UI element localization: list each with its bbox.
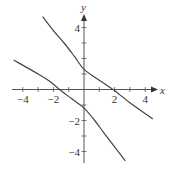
graph-plot: −4−2244−2−4 x y	[0, 0, 174, 172]
x-axis-label: x	[159, 84, 165, 96]
y-axis-arrow-icon	[81, 14, 87, 21]
x-tick-label: −4	[17, 93, 29, 105]
curves	[14, 17, 153, 161]
x-tick-label: 4	[142, 93, 148, 105]
axes	[12, 14, 158, 163]
x-axis-arrow-icon	[151, 87, 158, 93]
y-tick-label: −2	[68, 115, 80, 127]
x-tick-label: 2	[112, 93, 118, 105]
y-tick-label: −4	[68, 146, 80, 158]
x-tick-label: −2	[48, 93, 60, 105]
y-axis-label: y	[80, 1, 86, 13]
y-tick-label: 4	[75, 22, 81, 34]
